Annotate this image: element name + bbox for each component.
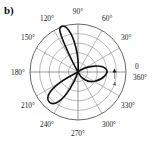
- angle-label-360: 360°: [133, 73, 147, 82]
- angle-label-150: 150°: [21, 33, 35, 42]
- angle-label-30: 30°: [121, 33, 131, 42]
- angle-label-60: 60°: [102, 14, 112, 23]
- polar-plot-svg: 4 0 360° 30° 60° 90° 120° 150° 180° 210°…: [0, 0, 157, 144]
- angle-label-90: 90°: [73, 7, 83, 16]
- angle-label-240: 240°: [40, 120, 54, 129]
- angle-label-270: 270°: [71, 129, 85, 138]
- rose-petal-240deg: [48, 72, 78, 104]
- angle-label-210: 210°: [21, 101, 35, 110]
- angle-label-180: 180°: [11, 68, 25, 77]
- rose-petal-120deg: [60, 26, 78, 72]
- angle-label-330: 330°: [121, 101, 135, 110]
- angle-label-120: 120°: [40, 14, 54, 23]
- angle-label-300: 300°: [102, 120, 116, 129]
- angle-label-0: 0: [135, 62, 139, 71]
- polar-plot: 4 0 360° 30° 60° 90° 120° 150° 180° 210°…: [0, 0, 157, 144]
- radial-tick-label-4: 4: [113, 80, 117, 87]
